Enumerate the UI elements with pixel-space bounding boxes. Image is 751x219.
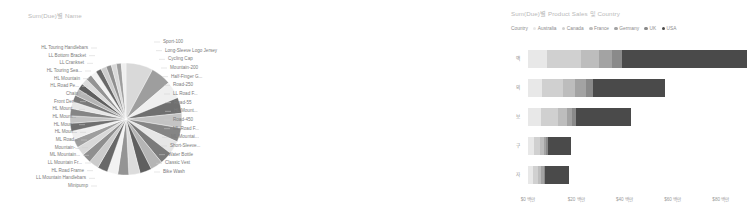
pie-label: Sport-100 [163, 39, 183, 45]
pie-label: Mountain-... [55, 145, 79, 151]
bar-segment[interactable] [612, 50, 622, 68]
pie-label: Short-Sleeve... [170, 143, 200, 149]
x-axis-tick-label: $80 백만 [712, 196, 729, 202]
bar-row[interactable]: 의 [511, 79, 751, 97]
pie-label: HL Road Pe... [50, 83, 79, 89]
bar-stack[interactable] [528, 108, 631, 126]
bar-segment[interactable] [528, 79, 542, 97]
x-axis-tick-label: $40 백만 [616, 196, 633, 202]
legend-swatch-icon [533, 27, 537, 31]
bar-segment[interactable] [545, 166, 569, 184]
pie-label: Road-55 [174, 100, 192, 106]
pie-label: Half-Finger G... [171, 74, 202, 80]
legend-swatch-icon [662, 27, 666, 31]
country-legend[interactable]: Country AustraliaCanadaFranceGermanyUKUS… [511, 26, 679, 31]
pie-label: Water Bottle [168, 152, 193, 158]
pie-label: Mountain-200 [170, 65, 198, 71]
legend-label: USA [666, 26, 676, 31]
pie-label: Bike Wash [163, 169, 185, 175]
pie-label: Classic Vest [165, 160, 190, 166]
bar-chart-panel: Sum(Due)별 Product Sales 및 Country Countr… [253, 0, 512, 219]
bar-segment[interactable] [575, 79, 586, 97]
pie-label: Front Der... [54, 99, 77, 105]
pie-chart-panel: Sum(Due)별 Name Sport-100Long-Sleeve Logo… [0, 0, 253, 219]
legend-item[interactable]: France [589, 26, 609, 31]
pie-label: Minipump [68, 183, 88, 189]
bar-row[interactable]: 자 [511, 166, 751, 184]
bar-segment[interactable] [593, 79, 665, 97]
pie-label: ML Mountai... [171, 134, 199, 140]
bar-chart-plot[interactable]: 액의보구자 [511, 46, 751, 196]
pie-chart-visual[interactable] [0, 0, 253, 219]
x-axis-tick-label: $60 백만 [664, 196, 681, 202]
legend-title: Country [511, 26, 528, 31]
legend-item[interactable]: USA [662, 26, 677, 31]
pie-label: ML Road... [56, 137, 78, 143]
legend-item[interactable]: Germany [614, 26, 639, 31]
bar-category-label: 자 [511, 166, 525, 184]
bar-segment[interactable] [541, 108, 558, 126]
bar-row[interactable]: 구 [511, 137, 751, 155]
pie-label: HL Mount... [52, 114, 76, 120]
pie-label: HL Touring Sea... [47, 68, 82, 74]
bar-chart-x-axis: $0 백만$20 백만$40 백만$60 백만$80 백만 [511, 196, 751, 210]
bar-segment[interactable] [581, 50, 599, 68]
legend-label: Australia [538, 26, 557, 31]
legend-item[interactable]: Australia [533, 26, 557, 31]
legend-label: France [594, 26, 609, 31]
pie-label: LL Mountain Fr... [48, 160, 82, 166]
bar-segment[interactable] [542, 79, 562, 97]
pie-label: Road-250 [173, 82, 193, 88]
bar-category-label: 보 [511, 108, 525, 126]
bar-segment[interactable] [528, 108, 541, 126]
pie-label: LL Mountain Handlebars [36, 175, 86, 181]
legend-item[interactable]: Canada [562, 26, 584, 31]
bar-stack[interactable] [528, 50, 747, 68]
bar-segment[interactable] [599, 50, 612, 68]
pie-label: Road-450 [173, 117, 193, 123]
bar-segment[interactable] [563, 79, 575, 97]
pie-label: LL Road F... [173, 91, 198, 97]
bar-segment[interactable] [528, 50, 547, 68]
bar-segment[interactable] [576, 108, 631, 126]
bar-stack[interactable] [528, 79, 665, 97]
bar-segment[interactable] [547, 50, 581, 68]
x-axis-tick-label: $20 백만 [568, 196, 585, 202]
pie-label: HL Road Frame [51, 168, 84, 174]
pie-label: Long-Sleeve Logo Jersey [165, 48, 217, 54]
bar-chart-title: Sum(Due)별 Product Sales 및 Country [511, 9, 620, 18]
bar-row[interactable]: 보 [511, 108, 751, 126]
pie-label: HL Moun... [55, 129, 77, 135]
legend-label: UK [649, 26, 656, 31]
pie-label: HL Mountain [54, 76, 80, 82]
pie-label: HL Mount... [52, 106, 76, 112]
pie-label: Cycling Cap [168, 56, 193, 62]
pie-label: ML Mountain... [50, 152, 80, 158]
legend-swatch-icon [644, 27, 648, 31]
x-axis-tick-label: $0 백만 [521, 196, 535, 202]
legend-swatch-icon [589, 27, 593, 31]
legend-item[interactable]: UK [644, 26, 656, 31]
legend-swatch-icon [562, 27, 566, 31]
pie-label: HL Mount... [174, 108, 198, 114]
bar-segment[interactable] [622, 50, 747, 68]
bar-row[interactable]: 액 [511, 50, 751, 68]
legend-label: Canada [567, 26, 584, 31]
pie-slices[interactable] [0, 0, 253, 219]
pie-label: Chain [66, 91, 78, 97]
pie-label: LL Crankset [59, 60, 84, 66]
bar-category-label: 의 [511, 79, 525, 97]
pie-label: ML Road F... [173, 126, 199, 132]
bar-segment[interactable] [548, 137, 571, 155]
bar-segment[interactable] [586, 79, 593, 97]
pie-label: HL Moun... [54, 122, 76, 128]
bar-stack[interactable] [528, 137, 571, 155]
legend-label: Germany [619, 26, 639, 31]
pie-label: HL Touring Handlebars [41, 45, 88, 51]
bar-category-label: 구 [511, 137, 525, 155]
legend-swatch-icon [614, 27, 618, 31]
bar-category-label: 액 [511, 50, 525, 68]
bar-stack[interactable] [528, 166, 569, 184]
pie-label: LL Bottom Bracket [48, 53, 86, 59]
bar-segment[interactable] [558, 108, 567, 126]
